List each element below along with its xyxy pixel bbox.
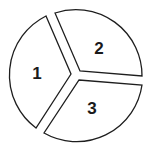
section-3-label: 3 <box>87 99 96 118</box>
section-2-label: 2 <box>94 39 103 58</box>
divided-circle-diagram: 1 2 3 <box>0 0 149 146</box>
section-1-label: 1 <box>32 64 41 83</box>
